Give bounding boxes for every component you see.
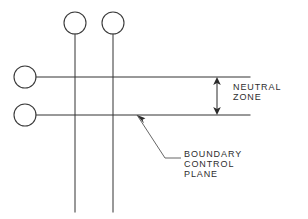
neutral-zone-label-line1: NEUTRAL: [233, 82, 281, 92]
diagram-canvas: NEUTRAL ZONE BOUNDARY CONTROL PLANE: [0, 0, 308, 219]
boundary-control-plane-label-line2: CONTROL: [184, 159, 234, 169]
neutral-zone-label-line2: ZONE: [233, 92, 262, 102]
leader-arrowhead: [137, 115, 145, 124]
boundary-control-plane-label-line1: BOUNDARY: [184, 149, 242, 159]
side-node-lower-circle: [14, 104, 36, 126]
side-node-upper-circle: [14, 66, 36, 88]
boundary-control-plane-leader-line: [137, 115, 181, 158]
top-node-right-circle: [102, 12, 124, 34]
technical-drawing: NEUTRAL ZONE BOUNDARY CONTROL PLANE: [0, 0, 308, 219]
boundary-control-plane-label-line3: PLANE: [184, 169, 218, 179]
top-node-left-circle: [64, 12, 86, 34]
